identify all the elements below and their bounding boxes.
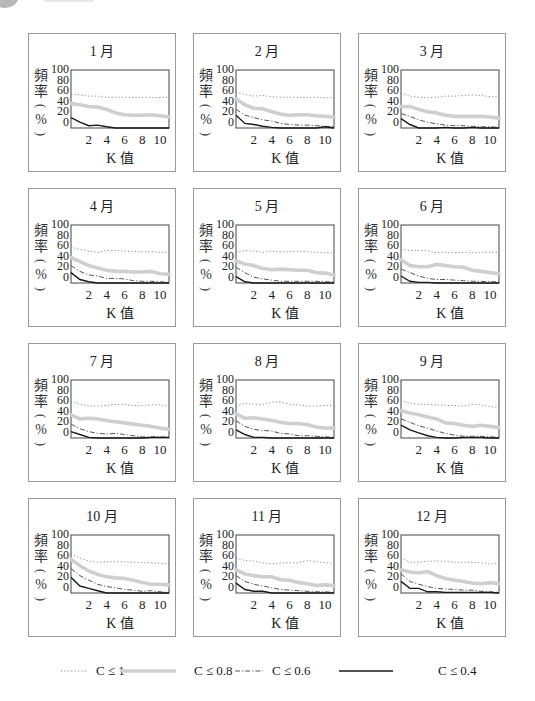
y-axis-label-char: 頻 [33,378,49,394]
y-axis-ticks: 100806040200 [379,529,399,592]
chart-panel: 6 月頻率(%)100806040200 246810K 值 [358,188,506,327]
y-tick-label: 0 [379,582,399,593]
x-tick-label: 8 [304,287,311,303]
series-line [236,92,334,98]
x-tick-label: 6 [121,287,128,303]
y-axis-ticks: 100806040200 [49,219,69,282]
y-axis-ticks: 100806040200 [214,529,234,592]
x-tick-label: 2 [251,442,258,458]
x-tick-label: 4 [433,287,440,303]
y-axis-label-char: ( [200,408,212,424]
x-axis-ticks: 246810 [236,597,334,611]
y-axis-label-char: 頻 [363,68,379,84]
x-tick-label: 4 [433,442,440,458]
y-axis-label: 頻率(%) [363,533,379,605]
y-axis-label-char: ( [35,98,47,114]
y-axis-label: 頻率(%) [363,223,379,295]
y-axis-ticks: 100806040200 [49,64,69,127]
panel-title: 10 月 [29,505,175,525]
x-tick-label: 2 [86,287,93,303]
panel-title: 6 月 [359,195,505,215]
y-axis-label-char: ) [365,591,377,607]
series-line [236,402,334,406]
x-tick-label: 6 [121,442,128,458]
y-axis-label-char: 頻 [198,223,214,239]
x-axis-ticks: 246810 [401,132,499,146]
y-axis-label-char: 頻 [198,378,214,394]
series-line [401,93,499,98]
plot-area [401,225,499,283]
panel-title: 11 月 [194,505,340,525]
x-tick-label: 8 [304,597,311,613]
y-axis-label-char: ) [365,281,377,297]
y-axis-label-char: 頻 [198,533,214,549]
y-axis-label-char: ) [200,591,212,607]
y-axis-label-char: 頻 [363,378,379,394]
y-axis-label-char: ( [365,563,377,579]
plot-area [236,535,334,593]
legend: C ≤ 1C ≤ 0.8C ≤ 0.6C ≤ 0.4 [60,660,480,682]
x-tick-label: 8 [469,132,476,148]
plot-area [401,380,499,438]
series-line [71,559,169,585]
panel-title: 12 月 [359,505,505,525]
x-axis-label: K 值 [71,457,169,477]
y-axis-label: 頻率(%) [33,378,49,450]
x-tick-label: 4 [268,287,275,303]
x-axis-label: K 值 [401,147,499,167]
legend-item-c08: C ≤ 0.8 [120,660,233,682]
series-line [71,118,169,128]
y-axis-label: 頻率(%) [198,68,214,140]
y-axis-label-char: ) [35,591,47,607]
series-line [401,107,499,119]
chart-panel: 9 月頻率(%)100806040200 246810K 值 [358,343,506,482]
panel-title: 1 月 [29,40,175,60]
series-line [71,94,169,97]
y-axis-label-char: ( [365,98,377,114]
x-axis-ticks: 246810 [236,287,334,301]
y-axis-label-char: ) [200,281,212,297]
y-tick-label: 0 [49,272,69,283]
y-axis-label-char: ) [365,126,377,142]
legend-item-c04: C ≤ 0.4 [338,660,477,682]
y-tick-label: 0 [49,582,69,593]
y-axis-ticks: 100806040200 [49,374,69,437]
x-tick-label: 10 [319,132,332,148]
plot-area [401,70,499,128]
legend-label: C ≤ 0.8 [194,663,233,679]
x-tick-label: 4 [433,597,440,613]
chart-panel: 12 月頻率(%)100806040200 246810K 值 [358,498,506,637]
series-line [71,247,169,252]
panel-title: 2 月 [194,40,340,60]
chart-panel: 2 月頻率(%)100806040200 246810K 值 [193,33,341,172]
legend-swatch-icon [234,666,264,676]
legend-item-c1: C ≤ 1 [60,660,125,682]
x-tick-label: 8 [139,132,146,148]
x-axis-label: K 值 [236,612,334,632]
chart-panel: 4 月頻率(%)100806040200 246810K 值 [28,188,176,327]
x-tick-label: 2 [416,132,423,148]
y-axis-ticks: 100806040200 [214,64,234,127]
plot-area [71,535,169,593]
y-tick-label: 0 [379,117,399,128]
x-tick-label: 8 [139,287,146,303]
legend-swatch-icon [338,666,394,676]
y-axis-label-char: ( [200,563,212,579]
series-line [236,558,334,564]
x-tick-label: 10 [154,132,167,148]
x-tick-label: 2 [86,442,93,458]
series-line [401,260,499,274]
plot-area [236,70,334,128]
x-tick-label: 8 [139,597,146,613]
y-axis-label-char: ( [365,408,377,424]
series-line [71,554,169,564]
x-axis-label: K 值 [71,612,169,632]
y-axis-ticks: 100806040200 [379,374,399,437]
x-axis-label: K 值 [236,147,334,167]
x-tick-label: 4 [103,597,110,613]
x-tick-label: 2 [416,442,423,458]
x-axis-ticks: 246810 [401,442,499,456]
y-tick-label: 0 [379,427,399,438]
series-line [71,258,169,275]
series-line [236,570,334,586]
